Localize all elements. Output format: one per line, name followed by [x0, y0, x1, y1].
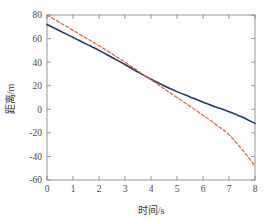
x-tick-label: 2: [97, 184, 102, 194]
x-tick-label: 4: [149, 184, 154, 194]
line-chart: 012345678 -60-40-20020406080 时间/s 距离/m: [0, 0, 275, 222]
y-tick-label: 20: [33, 81, 43, 91]
y-tick-label: -40: [29, 152, 42, 162]
x-axis-title: 时间/s: [138, 204, 165, 216]
x-tick-label: 7: [227, 184, 232, 194]
y-axis-title: 距离/m: [4, 84, 16, 115]
x-tick-label: 3: [123, 184, 128, 194]
x-tick-label: 1: [71, 184, 76, 194]
y-tick-label: -20: [29, 128, 42, 138]
chart-figure: 012345678 -60-40-20020406080 时间/s 距离/m: [0, 0, 275, 222]
x-tick-label: 8: [253, 184, 258, 194]
y-tick-label: -60: [29, 175, 42, 185]
x-tick-label: 6: [201, 184, 206, 194]
y-tick-label: 40: [33, 58, 43, 68]
x-tick-label: 0: [45, 184, 50, 194]
x-tick-label: 5: [175, 184, 180, 194]
y-tick-label: 0: [37, 105, 42, 115]
y-tick-label: 80: [33, 10, 43, 20]
y-tick-label: 60: [33, 34, 43, 44]
